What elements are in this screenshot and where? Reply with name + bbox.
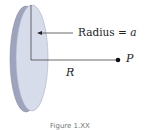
figure-caption: Figure 1.XX: [50, 122, 90, 130]
disk-face: [16, 5, 48, 111]
point-p: [116, 58, 121, 63]
disk-diagram: [0, 0, 151, 130]
point-label: P: [126, 52, 133, 65]
distance-label: R: [66, 66, 74, 79]
radius-label: Radius = a: [78, 26, 136, 38]
